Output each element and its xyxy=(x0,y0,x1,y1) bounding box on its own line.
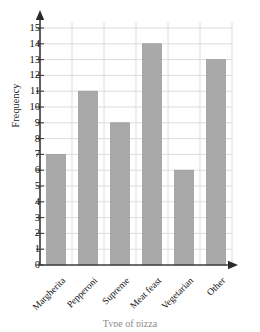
bar-meat-feast xyxy=(142,44,161,265)
bar-margherita xyxy=(46,154,65,265)
y-tick-label: 9 xyxy=(35,118,40,129)
y-tick-label: 15 xyxy=(30,23,41,34)
y-tick-label: 1 xyxy=(35,244,40,255)
bar-other xyxy=(206,60,225,265)
x-axis-title: Type of pizza xyxy=(0,318,260,327)
y-tick-label: 0 xyxy=(35,260,40,271)
y-axis-tick-labels: 0123456789101112131415 xyxy=(16,0,40,332)
y-tick-label: 12 xyxy=(30,70,41,81)
bar-vegetarian xyxy=(174,170,193,265)
y-tick-label: 3 xyxy=(35,212,40,223)
y-tick-label: 10 xyxy=(30,102,41,113)
bar-chart: Frequency 0123456789101112131415 Margher… xyxy=(0,0,260,332)
bar-supreme xyxy=(110,123,129,265)
y-tick-label: 6 xyxy=(35,165,40,176)
y-tick-label: 4 xyxy=(35,197,40,208)
y-tick-label: 11 xyxy=(30,86,40,97)
y-tick-label: 7 xyxy=(35,149,40,160)
y-tick-label: 13 xyxy=(30,54,41,65)
y-tick-label: 8 xyxy=(35,133,40,144)
y-tick-label: 5 xyxy=(35,181,40,192)
y-tick-label: 14 xyxy=(30,39,41,50)
bar-pepperoni xyxy=(78,91,97,265)
y-tick-label: 2 xyxy=(35,228,40,239)
gridlines xyxy=(40,22,232,265)
x-axis-arrowhead xyxy=(228,261,238,269)
